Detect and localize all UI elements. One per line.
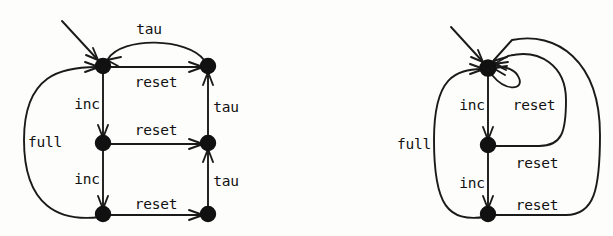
edge-label-tau: tau [136, 21, 162, 37]
state-top[interactable] [480, 60, 496, 76]
edge-label-tau: tau [213, 173, 239, 189]
edge-label-reset: reset [135, 196, 178, 212]
initial-state-arrow [62, 21, 98, 60]
transition-tau-upper-right [203, 72, 213, 137]
edge-label-full: full [28, 134, 62, 150]
left-diagram: tau reset inc tau reset full inc tau res… [24, 21, 239, 222]
edge-label-reset: reset [135, 74, 178, 90]
diagram-canvas: tau reset inc tau reset full inc tau res… [0, 0, 613, 236]
transition-full-left-sweep [434, 64, 485, 218]
state-top-right[interactable] [201, 59, 216, 74]
state-bottom-left[interactable] [96, 207, 111, 222]
state-bottom[interactable] [481, 207, 496, 222]
figure-root: tau reset inc tau reset full inc tau res… [0, 0, 613, 236]
transition-tau-lower-right [203, 149, 213, 207]
edge-label-inc: inc [459, 175, 485, 191]
edge-label-full: full [397, 136, 431, 152]
edge-label-inc: inc [459, 97, 485, 113]
edge-label-tau: tau [213, 99, 239, 115]
edge-label-reset: reset [135, 122, 178, 138]
transition-reset-bottom-arc [493, 38, 600, 215]
state-middle[interactable] [481, 138, 496, 153]
transition-reset-middle-row [110, 139, 203, 149]
edge-label-inc: inc [74, 96, 100, 112]
edge-label-reset: reset [513, 97, 556, 113]
state-bottom-right[interactable] [201, 207, 216, 222]
edge-label-reset: reset [516, 155, 559, 171]
right-diagram: inc reset full reset inc reset [397, 27, 600, 222]
edge-label-reset: reset [516, 197, 559, 213]
state-middle-left[interactable] [96, 136, 111, 151]
state-top-left[interactable] [96, 59, 111, 74]
transition-reset-top-row [110, 62, 203, 72]
edge-label-inc: inc [74, 171, 100, 187]
state-middle-right[interactable] [201, 136, 216, 151]
initial-state-arrow [451, 27, 483, 62]
